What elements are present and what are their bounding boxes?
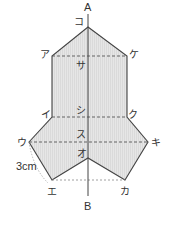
point-label-i: イ (41, 109, 51, 120)
point-label-e: エ (47, 186, 57, 197)
point-label-ka: カ (120, 186, 130, 197)
point-label-ko: コ (74, 16, 84, 27)
axis-label-b: B (84, 200, 91, 212)
point-label-a: ア (40, 49, 50, 60)
figure-diagram: A B コ ア ケ サ イ シ ク ス ウ キ オ エ カ 3cm (0, 0, 169, 233)
point-label-su: ス (76, 129, 86, 140)
point-label-shi: シ (76, 105, 86, 116)
point-label-ku: ク (128, 109, 138, 120)
point-label-u: ウ (17, 137, 27, 148)
point-label-ke: ケ (129, 49, 139, 60)
axis-label-a: A (84, 1, 92, 13)
dimension-label: 3cm (16, 160, 37, 172)
point-label-ki: キ (151, 137, 161, 148)
point-label-o: オ (77, 148, 87, 159)
point-label-sa: サ (76, 60, 86, 71)
